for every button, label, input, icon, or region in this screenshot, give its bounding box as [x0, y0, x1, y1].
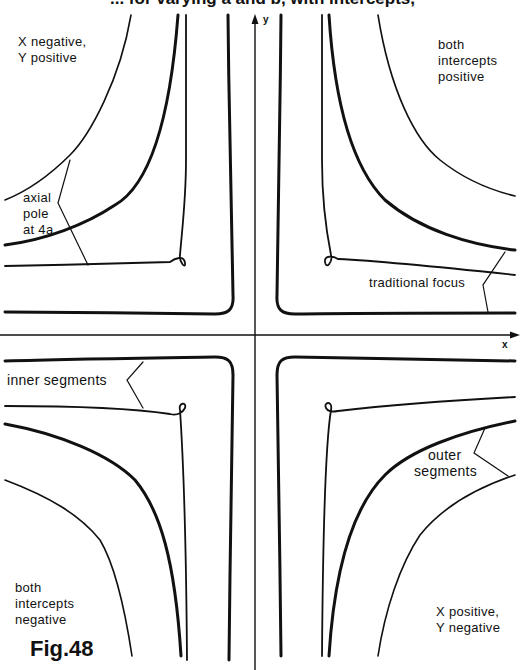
label-line: segments [414, 463, 477, 479]
axial-pole-leader [58, 160, 88, 265]
label-line: intercepts [15, 596, 74, 612]
annotation-outer-segments: outer segments [414, 447, 477, 479]
inner-segments-leader [127, 362, 143, 408]
y-axis-label: y [263, 14, 269, 25]
label-line: X negative, [18, 34, 86, 50]
figure-number: Fig.48 [30, 636, 94, 662]
annotation-inner-segments: inner segments [7, 372, 107, 388]
label-line: Y positive [18, 50, 86, 66]
label-line: at 4a [23, 222, 53, 238]
label-top-right: both intercepts positive [438, 37, 497, 85]
label-line: intercepts [438, 53, 497, 69]
label-line: pole [23, 206, 53, 222]
outer-segments-leader [474, 428, 508, 476]
label-line: outer [414, 447, 477, 463]
label-bottom-left: both intercepts negative [15, 580, 74, 628]
label-line: both [15, 580, 74, 596]
label-line: both [438, 37, 497, 53]
y-axis-arrow [252, 14, 259, 24]
annotation-traditional-focus: traditional focus [369, 275, 465, 291]
label-top-left: X negative, Y positive [18, 34, 86, 66]
bl-outer-thin [5, 480, 132, 656]
label-line: X positive, [436, 604, 500, 620]
hyperbola-diagram [0, 0, 525, 670]
x-axis-arrow [510, 332, 520, 339]
label-line: negative [15, 612, 74, 628]
annotation-axial-pole: axial pole at 4a [23, 190, 53, 238]
label-bottom-right: X positive, Y negative [436, 604, 500, 636]
label-line: positive [438, 69, 497, 85]
traditional-focus-leader [483, 252, 505, 312]
label-line: axial [23, 190, 53, 206]
label-line: Y negative [436, 620, 500, 636]
x-axis-label: x [502, 339, 508, 350]
